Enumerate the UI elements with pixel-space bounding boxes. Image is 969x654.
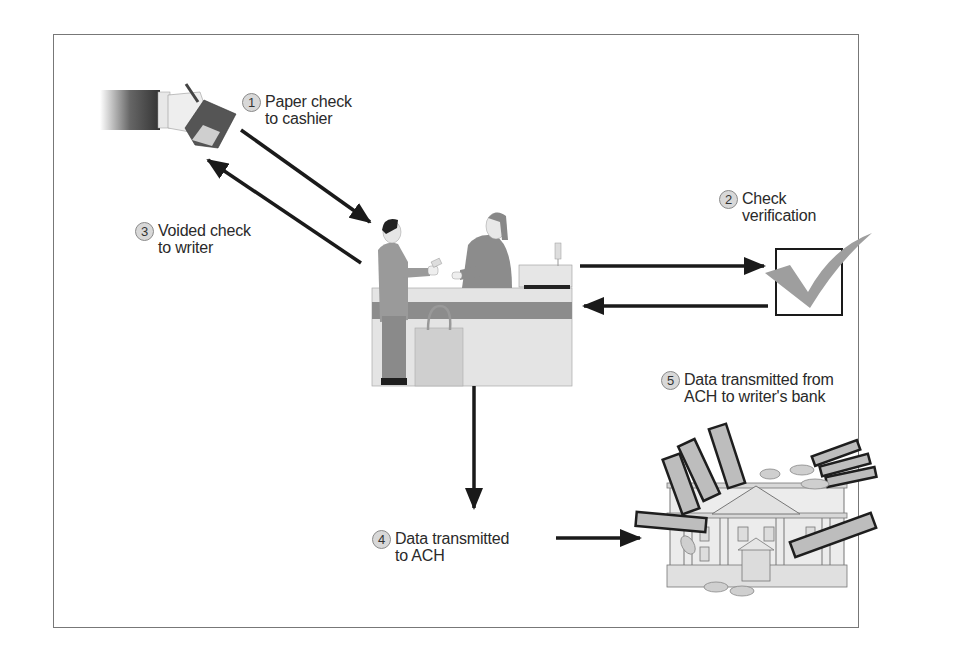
arrow-check-to-cashier <box>241 130 370 222</box>
step-1-label: 1 Paper checkto cashier <box>242 93 352 127</box>
hand-with-checkbook-icon <box>100 84 236 148</box>
step-number-badge: 1 <box>242 93 261 112</box>
step-number-badge: 5 <box>661 371 680 390</box>
step-4-label: 4 Data transmittedto ACH <box>372 530 509 564</box>
step-5-label: 5 Data transmitted fromACH to writer's b… <box>661 371 834 405</box>
step-number-badge: 4 <box>372 530 391 549</box>
step-number-badge: 2 <box>719 190 738 209</box>
step-3-label: 3 Voided checkto writer <box>135 222 251 256</box>
bank-with-money-icon <box>636 424 877 596</box>
checkmark-box-icon <box>765 233 872 315</box>
step-2-label: 2 Checkverification <box>719 190 816 224</box>
cashier-counter-icon <box>372 212 572 386</box>
step-number-badge: 3 <box>135 222 154 241</box>
